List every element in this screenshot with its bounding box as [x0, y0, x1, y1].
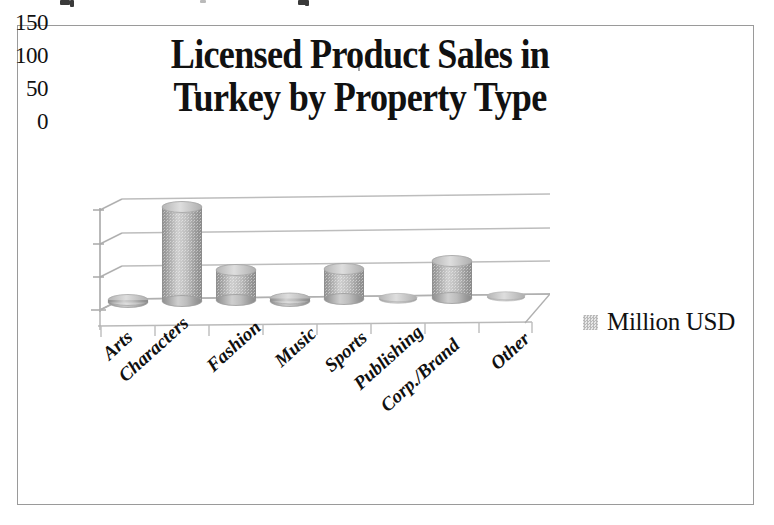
- scan-speck: [70, 0, 74, 7]
- bar-corp-brand: [432, 256, 472, 304]
- bar-music: [270, 293, 310, 307]
- depth-connectors: [100, 199, 122, 310]
- x-axis-label-music: Music: [270, 322, 321, 371]
- bar-fashion: [216, 265, 256, 306]
- series-color-swatch-icon: [583, 315, 598, 330]
- chart-legend: Million USD: [583, 308, 735, 336]
- x-axis-label-other: Other: [486, 328, 534, 375]
- bar-characters: [162, 202, 202, 307]
- plot-area: [80, 190, 550, 335]
- scan-speck: [200, 0, 206, 3]
- floor-right-edge: [525, 294, 550, 323]
- chart-canvas: [80, 190, 550, 340]
- y-axis-tick-150: 150: [0, 10, 48, 36]
- scan-speck: [60, 0, 70, 5]
- scan-speck: [305, 0, 309, 6]
- chart-title-line-2: Turkey by Property Type: [85, 76, 635, 119]
- y-axis-tick-100: 100: [0, 43, 48, 69]
- scan-artifacts: [0, 0, 774, 10]
- legend-entry-million-usd: Million USD: [607, 308, 735, 336]
- y-axis-tick-labels: 150 100 50 0: [0, 0, 48, 145]
- x-axis-category-labels: Arts Characters Fashion Music Sports Pub…: [80, 330, 640, 450]
- y-axis-tick-50: 50: [0, 76, 48, 102]
- chart-title-line-1: Licensed Product Sales in: [85, 33, 635, 76]
- y-axis-tick-0: 0: [0, 109, 48, 135]
- chart-title: Licensed Product Sales in Turkey by Prop…: [85, 33, 635, 120]
- y-axis-ticks: [91, 210, 106, 310]
- bar-publishing: [379, 293, 417, 303]
- bar-arts: [108, 295, 148, 308]
- bar-sports: [324, 264, 364, 305]
- bar-other: [487, 292, 525, 301]
